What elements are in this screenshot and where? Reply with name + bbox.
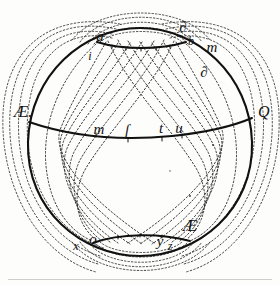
outer-loop-left-1 xyxy=(27,36,112,248)
label-equator-right: Q xyxy=(258,103,270,120)
meridian-a7 xyxy=(128,42,223,243)
label-equator-left: Æ. xyxy=(12,103,32,120)
label-north-left-upper: a xyxy=(96,28,104,44)
label-north-right-lower: b xyxy=(188,34,194,48)
outer-loop-left-4 xyxy=(3,22,120,272)
bottom-cap-arc-2 xyxy=(94,242,188,257)
label-equator-u: u xyxy=(175,120,183,136)
label-south-right-z: z xyxy=(167,239,173,253)
page-rule-line xyxy=(8,279,272,280)
speck-2 xyxy=(189,195,191,197)
label-equator-s: ſ xyxy=(125,122,131,138)
label-south-left-x: x xyxy=(72,239,79,253)
outer-loop-right-4 xyxy=(162,22,279,272)
label-south-right-cap: Æ xyxy=(181,217,197,234)
label-south-right-y: y xyxy=(155,233,164,249)
outer-loop-left-2 xyxy=(18,31,112,256)
meridian-a6 xyxy=(140,43,222,244)
meridian-b7 xyxy=(59,42,154,243)
label-equator-m: m xyxy=(94,121,105,137)
meridian-b2 xyxy=(74,40,164,241)
magnetic-globe-figure: Æ. Q a i ∂ b m ∂ m ſ t u x o y z Æ xyxy=(0,0,280,285)
label-south-left-o: o xyxy=(89,231,97,247)
top-cap-arc-3 xyxy=(88,22,194,44)
engraving-specks xyxy=(169,144,214,197)
magnetic-meridian-net xyxy=(45,40,236,244)
meridian-b1 xyxy=(77,41,174,240)
speck-1 xyxy=(212,144,214,146)
globe-diagram-svg: Æ. Q a i ∂ b m ∂ m ſ t u x o y z Æ xyxy=(0,0,280,285)
speck-3 xyxy=(169,170,170,171)
meridian-a2 xyxy=(118,40,208,241)
meridian-b6 xyxy=(60,43,142,244)
label-equator-t: t xyxy=(159,120,164,136)
label-north-right-upper: ∂ xyxy=(179,19,186,35)
meridian-a1 xyxy=(108,41,205,240)
meridian-b4 xyxy=(64,42,142,243)
label-north-left-lower: i xyxy=(88,49,91,63)
label-north-far-right: m xyxy=(207,39,218,55)
label-upper-right-mid: ∂ xyxy=(200,64,207,80)
